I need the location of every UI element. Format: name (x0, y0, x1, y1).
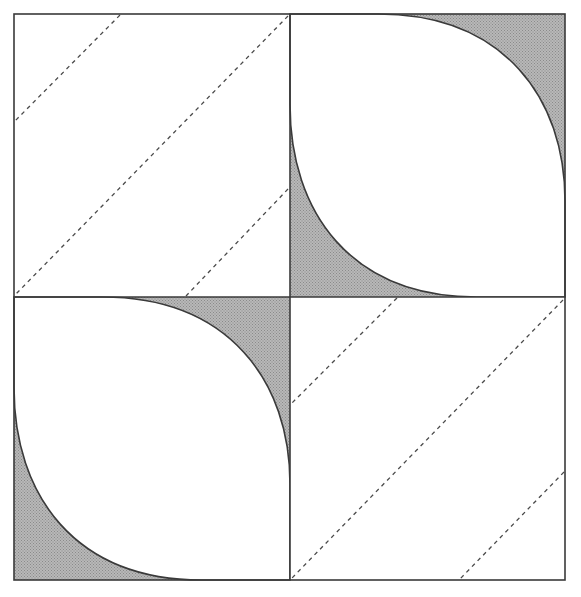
quadrant-bottom-left (14, 297, 290, 580)
quilt-block-svg (0, 0, 581, 597)
quadrant-top-left (14, 14, 290, 297)
quilt-block-diagram: Quilt block: four-patch with leaf (drunk… (0, 0, 581, 597)
quadrant-top-right (290, 14, 565, 297)
quadrant-bottom-right (290, 297, 565, 580)
